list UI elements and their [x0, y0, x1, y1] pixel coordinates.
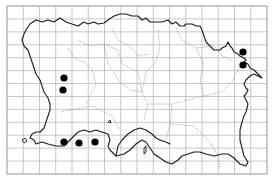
record-dot: [59, 86, 66, 93]
record-dot: [239, 61, 246, 68]
distribution-map: [0, 0, 273, 180]
st-aubins-bay-coast: [116, 128, 170, 156]
record-dot: [60, 74, 67, 81]
record-dot: [75, 139, 82, 146]
record-dot: [91, 138, 98, 145]
islet: [144, 146, 146, 154]
islet: [22, 138, 27, 143]
map-canvas: [0, 0, 273, 180]
islet: [108, 120, 111, 123]
record-dot: [60, 138, 67, 145]
coastline: [22, 14, 262, 166]
record-dot: [239, 48, 246, 55]
grid-lines: [7, 6, 267, 174]
